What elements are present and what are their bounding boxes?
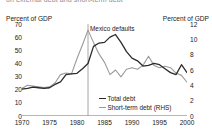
left-axis-tick-label: 10 [6,99,22,106]
right-axis-tick-label: 8 [190,51,208,58]
x-axis-tick-label: 1985 [92,119,118,126]
chart-figure: on external debt and short-term debt Per… [0,0,212,134]
x-axis-tick-label: 1980 [64,119,90,126]
right-axis-tick-label: 12 [190,21,208,28]
x-axis-tick-label: 1995 [147,119,173,126]
series-line-short-term-debt [22,30,187,88]
legend-label-total-debt: Total debt [108,94,136,103]
right-axis-tick-label: 4 [190,82,208,89]
right-axis-tick-label: 2 [190,97,208,104]
right-axis-tick-label: 6 [190,67,208,74]
legend-swatch-total-debt [99,98,106,99]
left-axis-tick-label: 40 [6,60,22,67]
left-axis-tick-label: 30 [6,73,22,80]
legend-item-short-term-debt: Short-term debt (RHS) [99,103,171,112]
clipped-header-text: on external debt and short-term debt [6,0,123,3]
right-axis-tick-label: 10 [190,36,208,43]
x-axis-tick-label: 1990 [119,119,145,126]
left-axis-tick-label: 60 [6,34,22,41]
legend-item-total-debt: Total debt [99,94,171,103]
left-axis-tick-label: 20 [6,86,22,93]
x-axis-tick-label: 1970 [9,119,35,126]
left-axis-tick-label: 50 [6,47,22,54]
chart-legend: Total debt Short-term debt (RHS) [99,94,171,112]
left-axis-tick-label: 70 [6,21,22,28]
legend-swatch-short-term-debt [99,107,106,108]
x-axis-tick-label: 1975 [37,119,63,126]
legend-label-short-term-debt: Short-term debt (RHS) [108,103,172,112]
x-axis-tick-label: 2000 [174,119,200,126]
